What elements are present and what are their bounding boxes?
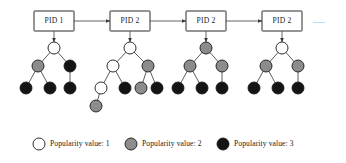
legend-item-1: Popularity value: 1: [33, 138, 110, 150]
tree-2-node-a1x[interactable]: [90, 100, 102, 112]
tree-3-node-a[interactable]: [184, 60, 196, 72]
tree-3-node-b1[interactable]: [216, 82, 228, 94]
tree-3-node-b[interactable]: [216, 60, 228, 72]
legend: Popularity value: 1 Popularity value: 2 …: [33, 138, 294, 150]
pid-box-4-label: PID 2: [273, 16, 292, 25]
pid-box-2[interactable]: PID 2: [110, 11, 150, 31]
tree-2-node-a2[interactable]: [119, 82, 131, 94]
tree-1-node-a1[interactable]: [20, 82, 32, 94]
popularity-tree-chain-figure: PID 1 PID 2 PID 2 PID 2 ......: [0, 0, 346, 163]
tree-3-node-a2[interactable]: [196, 82, 208, 94]
legend-swatch-white-icon: [33, 138, 45, 150]
pid-box-4[interactable]: PID 2: [262, 11, 302, 31]
pid-box-3[interactable]: PID 2: [186, 11, 226, 31]
tree-4-node-a2[interactable]: [272, 82, 284, 94]
pid-box-1[interactable]: PID 1: [34, 11, 74, 31]
tree-3: [172, 31, 228, 94]
tree-2-node-b2[interactable]: [151, 82, 163, 94]
tree-1-node-a[interactable]: [32, 60, 44, 72]
tree-2-node-a1[interactable]: [95, 82, 107, 94]
legend-swatch-black-icon: [217, 138, 229, 150]
pid-box-3-label: PID 2: [197, 16, 216, 25]
legend-label-2: Popularity value: 2: [142, 139, 202, 148]
tree-3-node-root[interactable]: [200, 42, 212, 54]
tree-3-node-a1[interactable]: [172, 82, 184, 94]
legend-item-3: Popularity value: 3: [217, 138, 294, 150]
tree-2: [90, 31, 163, 112]
pid-box-1-label: PID 1: [45, 16, 64, 25]
tree-1-node-b[interactable]: [64, 60, 76, 72]
tree-4-node-a[interactable]: [260, 60, 272, 72]
tree-4-node-b[interactable]: [292, 60, 304, 72]
legend-swatch-gray-icon: [125, 138, 137, 150]
legend-label-1: Popularity value: 1: [50, 139, 110, 148]
tree-1-node-b1[interactable]: [64, 82, 76, 94]
tree-2-node-root[interactable]: [124, 42, 136, 54]
tree-1: [20, 31, 76, 94]
tree-4: [248, 31, 304, 94]
tree-1-node-root[interactable]: [48, 42, 60, 54]
tree-4-node-root[interactable]: [276, 42, 288, 54]
pid-box-2-label: PID 2: [121, 16, 140, 25]
tree-2-node-b[interactable]: [142, 60, 154, 72]
tree-2-node-a[interactable]: [107, 60, 119, 72]
legend-label-3: Popularity value: 3: [234, 139, 294, 148]
continuation-ellipsis: ......: [313, 16, 325, 25]
legend-item-2: Popularity value: 2: [125, 138, 202, 150]
tree-2-node-b1[interactable]: [135, 82, 147, 94]
pid-chain: PID 1 PID 2 PID 2 PID 2 ......: [34, 11, 325, 31]
tree-1-node-a2[interactable]: [44, 82, 56, 94]
tree-4-node-a1[interactable]: [248, 82, 260, 94]
tree-4-node-b1[interactable]: [292, 82, 304, 94]
